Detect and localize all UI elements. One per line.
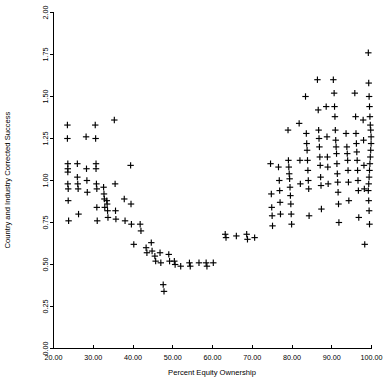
y-tick-label: 1.75 — [41, 48, 50, 62]
y-tick-label: 1.00 — [41, 174, 50, 188]
x-tick-label: 60.00 — [204, 353, 222, 362]
x-tick-label: 40.00 — [124, 353, 142, 362]
y-tick-label: 0.25 — [41, 300, 50, 314]
y-tick-label: 2.00 — [41, 6, 50, 20]
scatter-plot-figure: 0.000.250.500.751.001.251.501.752.00 20.… — [0, 0, 385, 383]
y-axis-title: Country and Industry Corrected Success — [3, 111, 12, 248]
y-tick-label: 1.50 — [41, 90, 50, 104]
x-tick-label: 20.00 — [45, 353, 63, 362]
x-axis-title: Percent Equity Ownership — [168, 368, 256, 377]
y-tick-label: 0.75 — [41, 216, 50, 230]
y-tick-label: 1.25 — [41, 132, 50, 146]
x-tick-label: 70.00 — [243, 353, 261, 362]
chart-canvas: 0.000.250.500.751.001.251.501.752.00 20.… — [0, 0, 385, 383]
x-tick-label: 30.00 — [84, 353, 102, 362]
x-tick-label: 50.00 — [164, 353, 182, 362]
x-tick-label: 90.00 — [323, 353, 341, 362]
x-tick-label: 80.00 — [283, 353, 301, 362]
x-tick-label: 100.00 — [361, 353, 383, 362]
chart-background — [0, 0, 385, 383]
y-tick-label: 0.50 — [41, 258, 50, 272]
